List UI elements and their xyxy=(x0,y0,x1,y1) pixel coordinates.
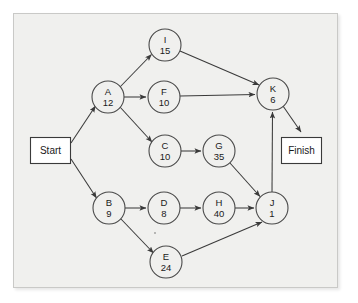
node-h[interactable]: H 40 xyxy=(203,192,235,224)
edge-b-to-e xyxy=(121,219,154,253)
node-d-label: D xyxy=(161,197,168,208)
diagram-canvas: Start Finish I 15 A 12 F 10 K 6 xyxy=(0,0,358,303)
node-d[interactable]: D 8 xyxy=(148,192,180,224)
edge-start-to-a xyxy=(71,106,96,143)
start-label: Start xyxy=(40,145,61,156)
node-a[interactable]: A 12 xyxy=(92,81,124,113)
node-d-duration: 8 xyxy=(161,208,166,219)
node-i[interactable]: I 15 xyxy=(149,29,181,61)
scan-speck xyxy=(154,232,156,234)
node-c-label: C xyxy=(162,140,169,151)
node-g-duration: 35 xyxy=(214,151,225,162)
node-j-duration: 1 xyxy=(269,208,274,219)
finish-label: Finish xyxy=(288,145,315,156)
node-h-label: H xyxy=(216,197,223,208)
node-g-label: G xyxy=(215,140,222,151)
network-diagram: Start Finish I 15 A 12 F 10 K 6 xyxy=(0,0,358,303)
node-f-label: F xyxy=(161,86,167,97)
node-b[interactable]: B 9 xyxy=(93,192,125,224)
node-e[interactable]: E 24 xyxy=(150,246,182,278)
edge-a-to-i xyxy=(120,55,152,88)
edge-start-to-b xyxy=(71,159,97,198)
edge-g-to-j xyxy=(230,163,260,197)
terminal-start[interactable]: Start xyxy=(31,138,71,164)
edge-i-to-k xyxy=(180,51,259,85)
node-a-duration: 12 xyxy=(103,97,114,108)
node-g[interactable]: G 35 xyxy=(203,135,235,167)
node-e-label: E xyxy=(163,251,169,262)
node-f-duration: 10 xyxy=(159,97,170,108)
node-k-label: K xyxy=(270,83,277,94)
node-e-duration: 24 xyxy=(161,262,172,273)
edge-k-to-finish xyxy=(283,106,301,132)
edge-a-to-c xyxy=(120,107,152,142)
node-b-label: B xyxy=(106,197,112,208)
edge-j-to-k xyxy=(272,112,273,192)
node-i-duration: 15 xyxy=(160,45,171,56)
node-f[interactable]: F 10 xyxy=(148,81,180,113)
node-c-duration: 10 xyxy=(160,151,171,162)
node-j-label: J xyxy=(270,197,275,208)
node-k[interactable]: K 6 xyxy=(257,78,289,110)
node-i-label: I xyxy=(164,34,167,45)
node-a-label: A xyxy=(105,86,112,97)
node-k-duration: 6 xyxy=(270,94,275,105)
edge-e-to-j xyxy=(182,222,262,256)
edge-f-to-k xyxy=(180,95,255,97)
terminal-finish[interactable]: Finish xyxy=(282,138,322,164)
node-c[interactable]: C 10 xyxy=(149,135,181,167)
node-h-duration: 40 xyxy=(214,208,225,219)
node-j[interactable]: J 1 xyxy=(256,192,288,224)
node-b-duration: 9 xyxy=(106,208,111,219)
